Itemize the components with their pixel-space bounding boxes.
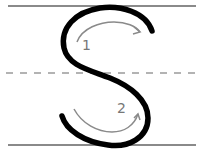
stroke-number-1: 1 [82,37,91,53]
letter-s-tracing-diagram: 1 2 [0,0,202,166]
letter-s-stroke [62,7,152,145]
stroke-number-2: 2 [117,100,126,116]
tracing-svg: 1 2 [0,0,202,166]
stroke-2-arrow [74,109,138,132]
